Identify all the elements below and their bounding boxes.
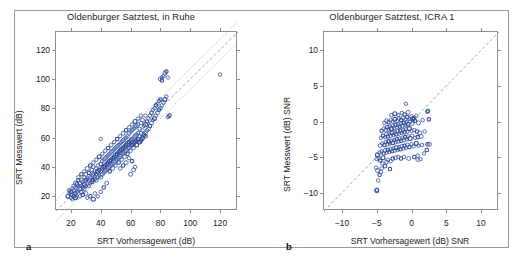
panel-a-xtick-label: 80 <box>156 218 165 228</box>
data-point <box>380 129 384 133</box>
data-point <box>129 172 133 176</box>
panel-b-xtick-label: 5 <box>444 218 449 228</box>
data-point <box>105 181 109 185</box>
panel-b-ytick-right <box>497 50 501 51</box>
data-point <box>407 127 411 131</box>
panel-b-xtick <box>412 209 413 213</box>
panel-b-ytick-label: 10 <box>290 45 318 55</box>
data-point <box>378 144 382 148</box>
data-point <box>99 137 103 141</box>
panel-b-xtick-label: 0 <box>409 218 414 228</box>
panel-a-xtick-top <box>160 28 161 32</box>
panel-b-label: b <box>286 241 292 252</box>
panel-b-ytick <box>320 50 324 51</box>
data-point <box>404 102 408 106</box>
data-point <box>99 190 103 194</box>
panel-a-xtick-label: 20 <box>66 218 75 228</box>
panel-b-xtick <box>377 209 378 213</box>
panel-a-xtick-label: 100 <box>183 218 197 228</box>
panel-b-xtick <box>481 209 482 213</box>
data-point <box>416 154 420 158</box>
panel-b-ytick <box>320 193 324 194</box>
panel-b-ytick-label: 0 <box>290 117 318 127</box>
data-point <box>102 186 106 190</box>
panel-a-ytick-right <box>236 196 240 197</box>
panel-a-ytick <box>52 50 56 51</box>
data-point <box>380 167 384 171</box>
panel-a-xtick <box>220 209 221 213</box>
data-point <box>93 192 97 196</box>
panel-b-ytick-label: −5 <box>290 152 318 162</box>
panel-a-ytick-label: 100 <box>22 74 50 84</box>
data-point <box>407 156 411 160</box>
panel-b-plot-area: −10−50510−10−50510 <box>323 31 498 210</box>
panel-a-data-layer <box>56 32 238 211</box>
panel-b-y-axis-label: SRT Messwert (dB) SNR <box>282 97 292 192</box>
panel-b-ytick-label: −10 <box>290 188 318 198</box>
data-point <box>420 143 424 147</box>
data-point <box>410 142 414 146</box>
figure-root: Oldenburger Satztest, in Ruhe SRT Messwe… <box>0 0 523 261</box>
panel-b-xtick-label: −10 <box>335 218 349 228</box>
panel-a-ytick-label: 60 <box>22 133 50 143</box>
panel-b-ytick <box>320 122 324 123</box>
data-point <box>421 118 425 122</box>
data-point <box>115 137 119 141</box>
panel-a-title: Oldenburger Satztest, in Ruhe <box>0 12 262 22</box>
data-point <box>86 196 90 200</box>
data-point <box>108 170 112 174</box>
panel-a-ytick-label: 40 <box>22 162 50 172</box>
data-point <box>129 149 133 153</box>
panel-b-ytick-right <box>497 122 501 123</box>
data-point <box>144 114 148 118</box>
data-point <box>130 159 134 163</box>
data-point <box>416 121 420 125</box>
panel-b-data-layer <box>324 32 499 211</box>
data-point <box>96 195 100 199</box>
panel-a-xtick-top <box>131 28 132 32</box>
panel-a-x-axis-label: SRT Vorhersagewert (dB) <box>55 236 237 246</box>
panel-a-xtick-top <box>71 28 72 32</box>
data-point <box>422 152 426 156</box>
panel-a-ytick-right <box>236 167 240 168</box>
data-point <box>376 179 380 183</box>
panel-a-ytick-right <box>236 138 240 139</box>
panel-a-ytick <box>52 138 56 139</box>
panel-b-ytick <box>320 157 324 158</box>
panel-a-ytick-right <box>236 108 240 109</box>
panel-b-xtick-top <box>342 28 343 32</box>
panel-a-xtick-top <box>190 28 191 32</box>
data-point <box>397 113 401 117</box>
panel-a-ytick-label: 120 <box>22 45 50 55</box>
panel-b-xtick-top <box>446 28 447 32</box>
panel-a-ytick-label: 80 <box>22 103 50 113</box>
panel-a-xtick <box>131 209 132 213</box>
data-point <box>425 148 429 152</box>
data-point <box>427 118 431 122</box>
panel-a-xtick-label: 60 <box>126 218 135 228</box>
panel-b-xtick <box>342 209 343 213</box>
data-point <box>118 167 122 171</box>
data-point <box>166 76 170 80</box>
panel-a-xtick-label: 120 <box>213 218 227 228</box>
panel-a-ytick-right <box>236 79 240 80</box>
panel-b-xtick-top <box>377 28 378 32</box>
panel-b-ytick-right <box>497 86 501 87</box>
data-point <box>218 73 222 77</box>
panel-a-xtick <box>160 209 161 213</box>
panel-b-ytick <box>320 86 324 87</box>
panel-b-xtick-label: 10 <box>476 218 485 228</box>
data-point <box>89 164 93 168</box>
panel-a-ytick <box>52 79 56 80</box>
panel-b-xtick-top <box>412 28 413 32</box>
panel-b-xtick <box>446 209 447 213</box>
panel-a-label: a <box>26 241 31 252</box>
data-point <box>413 155 417 159</box>
data-point <box>124 129 128 133</box>
panel-a-xtick-top <box>101 28 102 32</box>
panel-a: Oldenburger Satztest, in Ruhe SRT Messwe… <box>0 0 262 261</box>
panel-a-xtick <box>71 209 72 213</box>
data-point <box>117 161 121 165</box>
data-point <box>126 152 130 156</box>
data-point <box>414 142 418 146</box>
